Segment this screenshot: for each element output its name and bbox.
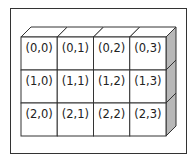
- block-grid: (0,0)(0,1)(0,2)(0,3)(1,0)(1,1)(1,2)(1,3)…: [0, 0, 195, 162]
- cell-label: (2,3): [134, 107, 161, 121]
- cell-label: (2,1): [62, 107, 89, 121]
- cell-label: (0,1): [62, 41, 89, 55]
- cell-label: (0,2): [98, 41, 125, 55]
- cell-label: (2,2): [98, 107, 125, 121]
- cell-label: (0,3): [134, 41, 161, 55]
- cell-label: (1,2): [98, 74, 125, 88]
- cell-label: (1,1): [62, 74, 89, 88]
- cell-label: (1,3): [134, 74, 161, 88]
- cell-label: (0,0): [25, 41, 52, 55]
- cell-label: (1,0): [25, 74, 52, 88]
- cell-label: (2,0): [25, 107, 52, 121]
